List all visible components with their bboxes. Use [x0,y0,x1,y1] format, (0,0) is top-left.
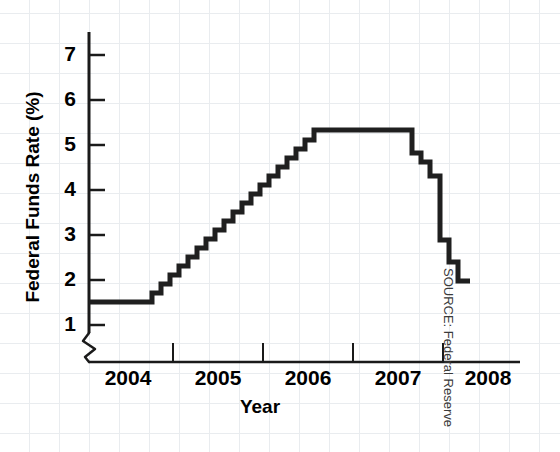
federal-funds-rate-step-line [89,130,470,302]
y-tick-label-1: 1 [52,312,76,336]
x-tick-label-2006: 2006 [263,366,353,390]
y-tick-label-7: 7 [52,42,76,66]
source-note: SOURCE: Federal Reserve [441,268,456,448]
y-tick-label-4: 4 [52,177,76,201]
x-axis-ticks [173,343,443,362]
x-tick-label-2008: 2008 [443,366,533,390]
x-axis-title: Year [185,396,335,418]
y-tick-label-3: 3 [52,222,76,246]
x-tick-label-2004: 2004 [83,366,173,390]
x-tick-label-2005: 2005 [173,366,263,390]
chart-figure: 7 6 5 4 3 2 1 2004 2005 2006 2007 2008 F… [0,0,560,452]
y-tick-label-6: 6 [52,87,76,111]
x-tick-label-2007: 2007 [353,366,443,390]
y-axis-break-icon [83,333,95,362]
y-axis-title: Federal Funds Rate (%) [22,72,44,322]
y-tick-label-5: 5 [52,132,76,156]
y-axis-ticks [89,55,105,325]
y-tick-label-2: 2 [52,267,76,291]
